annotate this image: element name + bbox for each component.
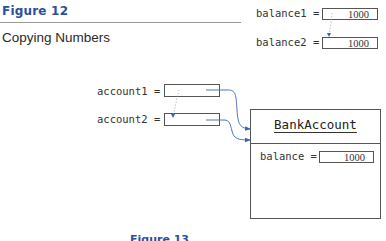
account2-arrow-icon: [206, 120, 250, 140]
connector-arrows: [0, 0, 386, 241]
copy-dotted-arrow-icon: [327, 13, 332, 37]
next-figure-label: Figure 13: [130, 233, 189, 241]
reference-copy-dotted-arrow-icon: [171, 90, 179, 118]
account1-arrow-icon: [206, 90, 250, 129]
